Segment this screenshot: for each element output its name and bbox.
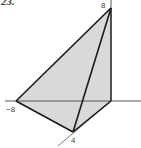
figure: 23. 8 −8 4 — [0, 0, 141, 148]
label-z-intercept: 8 — [101, 1, 105, 10]
label-x-intercept: −8 — [6, 105, 15, 114]
label-y-intercept: 4 — [71, 136, 75, 145]
tetrahedron-diagram — [0, 0, 141, 148]
